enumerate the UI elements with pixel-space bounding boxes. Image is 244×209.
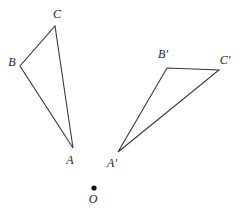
vertex-label-a: A: [66, 154, 73, 166]
vertex-label-c-prime: C': [220, 54, 231, 66]
center-point-label-o: O: [89, 193, 98, 205]
vertex-label-b-prime: B': [158, 48, 168, 60]
triangle-abc: [20, 26, 73, 148]
vertex-label-c: C: [53, 8, 61, 20]
center-point-o-marker: [91, 185, 96, 190]
vertex-label-b: B: [8, 56, 15, 68]
triangle-a-prime-b-prime-c-prime: [118, 68, 219, 152]
geometry-figure-canvas: A B C A' B' C' O: [0, 0, 244, 209]
vertex-label-a-prime: A': [107, 157, 117, 169]
figure-vector-layer: [0, 0, 244, 209]
